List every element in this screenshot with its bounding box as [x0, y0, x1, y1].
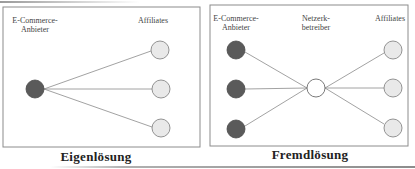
merchant-node	[26, 80, 44, 98]
affiliate-node	[151, 41, 169, 59]
affiliate-node	[384, 41, 402, 59]
network-label-line1: Netzerk-	[302, 14, 330, 23]
merchant-label-line1: E-Commerce-	[12, 16, 58, 25]
affiliate-node	[384, 79, 402, 97]
merchant-node	[227, 41, 245, 59]
affiliates-label: Affiliates	[375, 14, 405, 23]
network-label-line2: betreiber	[302, 23, 331, 32]
affiliate-node	[384, 119, 402, 137]
caption-eigenloesung: Eigenlösung	[60, 149, 131, 164]
merchant-node	[227, 80, 245, 98]
affiliate-diagram: E-Commerce- Anbieter Affiliates Eigenlös…	[0, 0, 415, 169]
affiliates-label: Affiliates	[138, 16, 168, 25]
network-operator-node	[307, 79, 325, 97]
panel-fremdloesung: E-Commerce- Anbieter Netzerk- betreiber …	[210, 5, 408, 162]
merchant-label-line2: Anbieter	[21, 25, 49, 34]
merchant-label-line1: E-Commerce-	[213, 14, 259, 23]
caption-fremdloesung: Fremdlösung	[272, 147, 349, 162]
affiliate-node	[152, 119, 170, 137]
panel-eigenloesung: E-Commerce- Anbieter Affiliates Eigenlös…	[3, 7, 200, 164]
affiliate-node	[152, 80, 170, 98]
bottom-decorative-rule	[50, 166, 415, 168]
merchant-node	[227, 120, 245, 138]
merchant-label-line2: Anbieter	[222, 23, 250, 32]
